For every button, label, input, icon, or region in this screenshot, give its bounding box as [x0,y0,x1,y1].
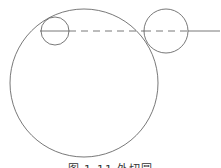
diagram-canvas: 图 1-11 外切圆 [0,0,221,168]
figure-caption: 图 1-11 外切圆 [0,160,221,168]
tangent-circles-diagram [0,0,221,168]
